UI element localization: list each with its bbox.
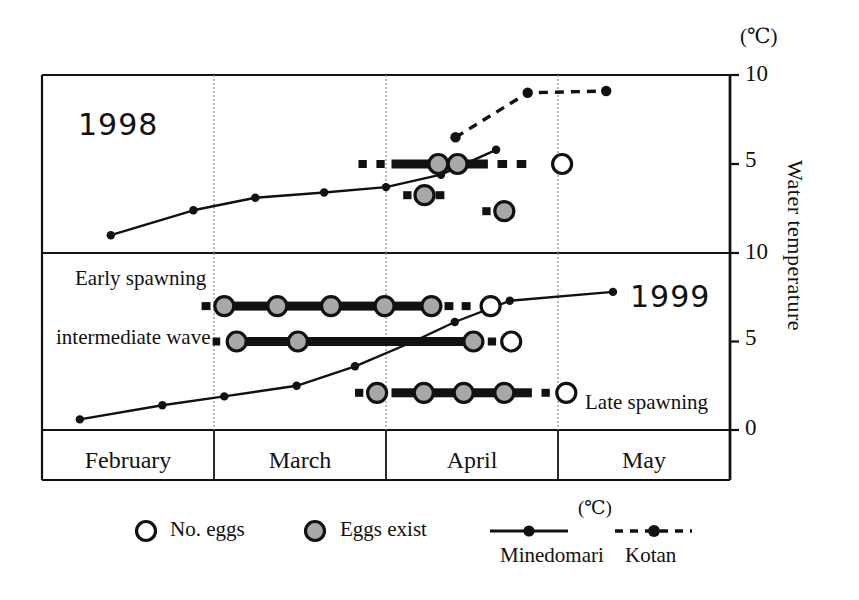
annotation-intermediate-wave: intermediate wave (56, 327, 211, 348)
tick-label-bottom-10: 10 (745, 240, 768, 263)
tick-label-top-5: 5 (745, 148, 757, 171)
month-gridlines (214, 75, 558, 480)
axis-ticks (730, 75, 739, 480)
tick-label-top-10: 10 (745, 62, 768, 85)
month-label-february: February (42, 441, 214, 479)
legend-label-no-eggs: No. eggs (170, 519, 245, 540)
figure-root: (℃) 10 5 10 5 0 Water temperature 1998 1… (0, 0, 859, 600)
legend-unit-celsius: (℃) (578, 498, 612, 517)
legend-label-kotan: Kotan (625, 545, 676, 566)
egg-record-bars (202, 155, 576, 403)
month-label-march: March (214, 441, 386, 479)
y-axis-title: Water temperature (782, 160, 808, 331)
legend-label-minedomari: Minedomari (500, 545, 604, 566)
panel-label-1999: 1999 (630, 282, 710, 312)
panel-label-1998: 1998 (78, 110, 158, 140)
axis-unit-top: (℃) (740, 26, 777, 47)
month-label-may: May (558, 441, 730, 479)
month-label-april: April (386, 441, 558, 479)
annotation-late-spawning: Late spawning (585, 392, 708, 413)
annotation-early-spawning: Early spawning (75, 268, 206, 289)
chart-canvas (0, 0, 859, 600)
tick-label-bottom-0: 0 (745, 416, 757, 439)
tick-label-bottom-5: 5 (745, 326, 757, 349)
legend-label-eggs-exist: Eggs exist (340, 519, 427, 540)
